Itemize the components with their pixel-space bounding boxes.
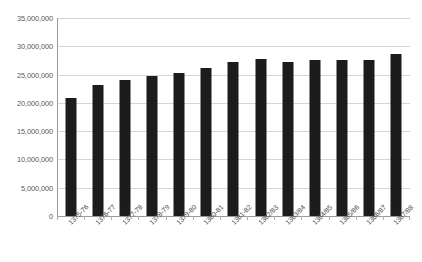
x-axis-tick-labels: 1375-761376-771377-781378-791379-801380-… [57, 221, 410, 262]
bar[interactable] [119, 80, 130, 216]
bar-slot [301, 18, 328, 216]
bar[interactable] [65, 98, 76, 216]
x-axis-tick [247, 216, 248, 220]
y-axis-tick-label: 10,000,000 [1, 155, 53, 164]
bar[interactable] [201, 68, 212, 216]
x-axis-tick [111, 216, 112, 220]
y-axis-tick-label: 5,000,000 [1, 183, 53, 192]
bar[interactable] [282, 62, 293, 216]
x-axis-tick [138, 216, 139, 220]
y-axis-tick-label: 25,000,000 [1, 70, 53, 79]
bar-slot [383, 18, 410, 216]
x-axis-tick [166, 216, 167, 220]
y-axis-tick-label: 0 [1, 212, 53, 221]
bar-slot [356, 18, 383, 216]
x-axis-tick [220, 216, 221, 220]
bar[interactable] [147, 76, 158, 216]
y-axis-tick-label: 30,000,000 [1, 42, 53, 51]
bar-slot [57, 18, 84, 216]
x-axis-tick [193, 216, 194, 220]
bar[interactable] [255, 59, 266, 216]
x-axis-tick [329, 216, 330, 220]
bar-slot [274, 18, 301, 216]
bar[interactable] [228, 62, 239, 216]
x-axis-tick [301, 216, 302, 220]
bar[interactable] [337, 60, 348, 216]
bar-slot [111, 18, 138, 216]
y-axis-tick-labels: 05,000,00010,000,00015,000,00020,000,000… [0, 0, 53, 262]
y-axis-tick-label: 15,000,000 [1, 127, 53, 136]
x-axis-tick [383, 216, 384, 220]
y-axis-tick-label: 20,000,000 [1, 98, 53, 107]
bar-slot [84, 18, 111, 216]
bar-slot [220, 18, 247, 216]
bar-chart: 05,000,00010,000,00015,000,00020,000,000… [0, 0, 422, 262]
bar[interactable] [309, 60, 320, 216]
bar-slot [138, 18, 165, 216]
bar-slot [193, 18, 220, 216]
x-axis-tick [409, 216, 410, 220]
bar-slot [329, 18, 356, 216]
bar-slot [166, 18, 193, 216]
x-axis-tick [356, 216, 357, 220]
bar[interactable] [391, 54, 402, 216]
bar-slot [247, 18, 274, 216]
x-axis-tick [57, 216, 58, 220]
x-axis-tick [84, 216, 85, 220]
bars-layer [57, 18, 410, 216]
bar[interactable] [92, 85, 103, 216]
y-axis-tick-label: 35,000,000 [1, 14, 53, 23]
bar[interactable] [174, 73, 185, 216]
x-axis-tick [274, 216, 275, 220]
bar[interactable] [364, 60, 375, 216]
